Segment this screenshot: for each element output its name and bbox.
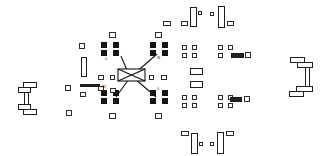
outline-node-9 — [110, 75, 115, 80]
bar-node-2 — [190, 81, 203, 88]
bar-node-0 — [81, 57, 87, 77]
outline-node-2 — [109, 113, 116, 119]
outline-node-23 — [228, 45, 233, 50]
lbl-h-bottom-left: H — [102, 84, 106, 89]
filled-node-6 — [150, 50, 156, 56]
outline-node-34 — [181, 131, 189, 136]
diag-ne — [133, 54, 157, 75]
outline-node-31 — [163, 21, 171, 26]
lbl-b-top-right: B — [157, 55, 160, 60]
outline-node-15 — [192, 45, 197, 50]
filled-node-10 — [101, 98, 107, 104]
filled-node-1 — [113, 42, 119, 48]
bar-node-4 — [218, 6, 225, 28]
outline-node-25 — [245, 52, 251, 58]
outline-node-4 — [79, 43, 85, 49]
outline-node-0 — [109, 32, 116, 38]
outline-node-3 — [155, 113, 162, 119]
outline-node-39 — [210, 142, 214, 146]
outline-node-30 — [244, 96, 250, 102]
outline-node-13 — [161, 75, 167, 80]
bar-node-6 — [217, 132, 224, 154]
outline-node-8 — [98, 75, 104, 80]
outline-node-5 — [65, 85, 71, 91]
filled-node-15 — [162, 98, 168, 104]
right-bracket-segment-4 — [289, 91, 304, 97]
filled-node-0 — [101, 42, 107, 48]
solid-bar-0 — [80, 84, 100, 87]
outline-node-22 — [218, 45, 223, 50]
filled-node-7 — [162, 50, 168, 56]
filled-node-3 — [113, 50, 119, 56]
hub-vane-2 — [132, 69, 146, 75]
outline-node-1 — [155, 32, 162, 38]
outline-node-17 — [192, 53, 197, 58]
bowtie-hub-icon — [118, 69, 145, 81]
outline-node-16 — [182, 53, 187, 58]
hub-vane-3 — [132, 75, 146, 81]
solid-bar-2 — [230, 97, 242, 102]
outline-node-33 — [227, 21, 234, 26]
lbl-a-bottom-right: A — [156, 86, 159, 91]
outline-node-35 — [226, 131, 234, 136]
bar-node-1 — [190, 68, 203, 75]
outline-node-7 — [80, 92, 86, 97]
outline-node-26 — [218, 95, 223, 100]
hub-body — [118, 69, 145, 81]
hub-vane-0 — [118, 69, 132, 75]
outline-node-11 — [110, 88, 116, 93]
bar-node-3 — [190, 7, 197, 27]
bar-node-5 — [191, 133, 198, 154]
schematic-canvas: ABHA — [0, 0, 329, 156]
outline-node-38 — [199, 142, 203, 146]
filled-node-11 — [113, 98, 119, 104]
filled-node-14 — [150, 98, 156, 104]
filled-node-4 — [150, 42, 156, 48]
outline-node-6 — [66, 110, 72, 116]
outline-node-14 — [182, 45, 187, 50]
filled-node-13 — [162, 90, 168, 96]
hub-vane-1 — [118, 75, 132, 81]
outline-node-37 — [210, 12, 214, 16]
solid-bar-1 — [231, 53, 244, 58]
outline-node-29 — [228, 103, 233, 108]
outline-node-12 — [149, 75, 154, 80]
filled-node-5 — [162, 42, 168, 48]
outline-node-32 — [181, 21, 188, 26]
left-bracket-segment-4 — [23, 109, 37, 115]
outline-node-19 — [192, 95, 197, 100]
outline-node-21 — [192, 103, 197, 108]
lbl-a-top-left: A — [104, 56, 107, 61]
outline-node-36 — [198, 11, 202, 15]
right-bracket-segment-2 — [305, 67, 310, 87]
outline-node-24 — [218, 53, 223, 58]
outline-node-18 — [182, 95, 187, 100]
outline-node-20 — [182, 103, 187, 108]
diag-nw — [121, 56, 129, 75]
outline-node-28 — [218, 103, 223, 108]
